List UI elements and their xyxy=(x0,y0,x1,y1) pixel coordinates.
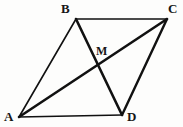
vertex-label-a: A xyxy=(4,110,13,123)
segments-group xyxy=(19,19,167,117)
segment-ab xyxy=(19,19,76,117)
vertex-label-c: C xyxy=(168,2,177,15)
figure-canvas xyxy=(0,0,183,127)
geometry-figure: A B C D M xyxy=(0,0,183,127)
vertex-label-d: D xyxy=(127,110,136,123)
segment-bd xyxy=(76,19,122,115)
segment-ad xyxy=(19,115,122,117)
intersection-label-m: M xyxy=(96,45,107,58)
vertex-label-b: B xyxy=(61,2,70,15)
